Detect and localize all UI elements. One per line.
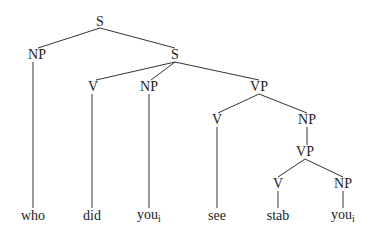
leaf-word: stab <box>267 209 290 223</box>
leaf-word: see <box>208 209 226 223</box>
leaf-word: did <box>83 209 101 223</box>
node-v: V <box>88 80 98 94</box>
node-vp: VP <box>250 80 268 94</box>
tree-edge <box>38 28 100 48</box>
leaf-word-text: stab <box>267 208 290 223</box>
leaf-word-text: you <box>137 207 158 222</box>
node-vp: VP <box>296 145 314 159</box>
node-np: NP <box>28 48 46 62</box>
node-s: S <box>96 15 104 29</box>
leaf-word-text: see <box>208 208 226 223</box>
node-v: V <box>212 113 222 127</box>
tree-edge <box>259 94 307 113</box>
tree-edge <box>278 159 305 177</box>
node-np: NP <box>140 80 158 94</box>
node-np: NP <box>298 113 316 127</box>
leaf-word: youi <box>137 208 161 225</box>
node-v: V <box>273 177 283 191</box>
leaf-word: who <box>21 209 45 223</box>
node-s: S <box>171 48 179 62</box>
node-np: NP <box>334 177 352 191</box>
index-subscript: i <box>352 213 355 224</box>
tree-edges <box>0 0 374 239</box>
leaf-word-text: who <box>21 208 45 223</box>
tree-edge <box>305 159 343 177</box>
tree-edge <box>100 28 175 48</box>
tree-edge <box>218 94 259 113</box>
index-subscript: i <box>158 213 161 224</box>
leaf-word-text: you <box>331 207 352 222</box>
leaf-word: youi <box>331 208 355 225</box>
tree-edge <box>175 62 259 80</box>
leaf-word-text: did <box>83 208 101 223</box>
